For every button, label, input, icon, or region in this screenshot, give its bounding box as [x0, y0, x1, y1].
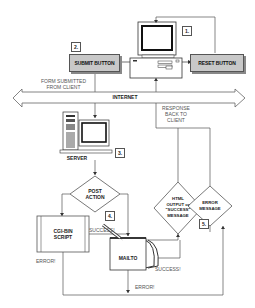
form-submitted-line2: FROM CLIENT	[36, 84, 91, 90]
step-2-label: 2.	[71, 42, 81, 52]
step-4-label: 4.	[105, 211, 115, 221]
error-message-label: ERROR MESSAGE	[195, 200, 225, 212]
html-output-label: HTML OUTPUT or "SUCCESS" MESSAGE	[158, 196, 198, 218]
internet-label: INTERNET	[105, 94, 145, 100]
response-line3: CLIENT	[156, 117, 196, 123]
step-5-label: 5.	[199, 219, 209, 229]
mailto-error-label: ERROR!	[135, 284, 154, 290]
reset-button-box: RESET BUTTON	[190, 54, 244, 72]
html-output-line4: MESSAGE	[158, 213, 198, 219]
form-submitted-label: FORM SUBMITTED FROM CLIENT	[36, 78, 91, 90]
post-action-line2: ACTION	[80, 194, 110, 200]
server-icon	[60, 112, 112, 153]
step-3-label: 3.	[115, 148, 125, 158]
error-message-line2: MESSAGE	[195, 206, 225, 212]
submit-button-box: SUBMIT BUTTON	[69, 54, 120, 72]
cgi-script-line2: SCRIPT	[47, 234, 79, 240]
step-1-label: 1.	[182, 26, 192, 36]
cgi-success-label: SUCCESS!	[89, 227, 115, 233]
cgi-error-label: ERROR!	[36, 258, 55, 264]
cgi-script-label: CGI-BIN SCRIPT	[47, 228, 79, 240]
server-label: SERVER	[62, 155, 92, 161]
post-action-label: POST ACTION	[80, 188, 110, 200]
client-computer-icon	[130, 22, 182, 78]
response-label: RESPONSE BACK TO CLIENT	[156, 105, 196, 123]
mailto-label: MAILTO	[114, 255, 142, 261]
mailto-success-label: SUCCESS!	[155, 266, 181, 272]
